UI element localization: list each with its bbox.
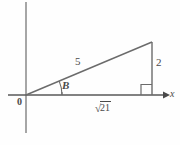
radical-group: √21: [95, 101, 111, 114]
angle-label: B: [62, 80, 69, 91]
x-axis-label: x: [170, 89, 174, 99]
hypotenuse-label: 5: [75, 56, 81, 67]
origin-label: 0: [17, 97, 22, 107]
radicand-value: 21: [100, 101, 111, 113]
x-axis-arrowhead-icon: [163, 92, 170, 99]
adjacent-side-label: √21: [95, 101, 111, 114]
hypotenuse-line: [26, 42, 152, 95]
right-angle-marker-icon: [141, 85, 152, 96]
opposite-side-label: 2: [156, 57, 162, 68]
triangle-figure: 0 5 2 B x √21: [0, 0, 180, 145]
triangle-diagram-svg: [0, 0, 180, 145]
